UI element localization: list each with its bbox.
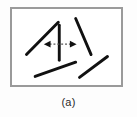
line-stimulus-canvas bbox=[12, 9, 121, 85]
stimulus-frame bbox=[10, 7, 123, 87]
figure-caption: (a) bbox=[0, 95, 137, 109]
line-segment-upper-right-diagonal bbox=[76, 19, 91, 55]
arrow-head-left bbox=[44, 41, 51, 48]
line-segment-upper-left-diagonal bbox=[26, 22, 58, 54]
line-segment-lower-right-diagonal bbox=[80, 57, 108, 78]
line-segment-lower-left-diagonal bbox=[35, 62, 76, 76]
arrow-head-right bbox=[70, 41, 77, 48]
figure-panel: (a) bbox=[0, 0, 137, 117]
